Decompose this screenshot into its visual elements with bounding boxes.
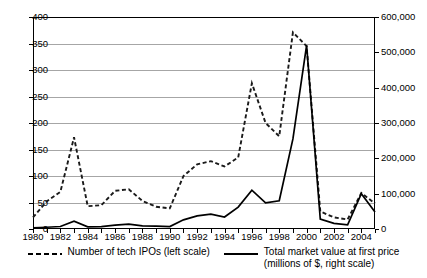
y-axis-right-tick-label: 600,000 <box>381 12 415 22</box>
x-axis-tick-mark <box>183 229 184 233</box>
x-axis-tick-label: 2000 <box>296 232 317 242</box>
y-axis-left-tick-label: 300 <box>32 65 48 75</box>
y-axis-left-tick-label: 400 <box>32 12 48 22</box>
y-axis-right-tick-label: 100,000 <box>381 189 415 199</box>
x-axis-tick-mark <box>211 229 212 233</box>
y-axis-right-tick-mark <box>375 123 379 124</box>
gridline <box>34 123 374 124</box>
chart-legend: Number of tech IPOs (left scale)Total ma… <box>0 246 427 270</box>
plot-area <box>33 17 375 229</box>
x-axis-tick-mark <box>320 229 321 233</box>
legend-item: Total market value at first price (milli… <box>224 246 400 270</box>
x-axis-tick-mark <box>348 229 349 233</box>
y-axis-right-tick-label: 200,000 <box>381 154 415 164</box>
gridline <box>34 176 374 177</box>
gridline <box>34 70 374 71</box>
y-axis-right-tick-mark <box>375 194 379 195</box>
y-axis-right-tick-mark <box>375 158 379 159</box>
gridline <box>34 44 374 45</box>
x-axis-tick-mark <box>74 229 75 233</box>
y-axis-left-tick-label: 250 <box>32 92 48 102</box>
y-axis-left-tick-mark <box>29 176 33 177</box>
y-axis-left-tick-label: 200 <box>32 118 48 128</box>
x-axis-tick-mark <box>238 229 239 233</box>
x-axis-tick-label: 1982 <box>50 232 71 242</box>
x-axis-tick-label: 1994 <box>214 232 235 242</box>
x-axis-tick-label: 1990 <box>159 232 180 242</box>
y-axis-left-tick-label: 50 <box>37 198 48 208</box>
y-axis-left-tick-mark <box>29 70 33 71</box>
y-axis-left-tick-mark <box>29 123 33 124</box>
x-axis-tick-mark <box>293 229 294 233</box>
y-axis-right-tick-label: 400,000 <box>381 83 415 93</box>
y-axis-right-tick-label: 300,000 <box>381 118 415 128</box>
tech-ipo-chart: 0501001502002503003504000100,000200,0003… <box>0 0 427 278</box>
x-axis-tick-label: 2004 <box>351 232 372 242</box>
x-axis-tick-mark <box>101 229 102 233</box>
x-axis-tick-label: 1988 <box>132 232 153 242</box>
y-axis-right-tick-label: 0 <box>381 224 386 234</box>
legend-item: Number of tech IPOs (left scale) <box>28 246 210 258</box>
x-axis-tick-mark <box>375 229 376 233</box>
y-axis-left-tick-label: 150 <box>32 145 48 155</box>
y-axis-right-tick-mark <box>375 52 379 53</box>
gridline <box>34 203 374 204</box>
legend-label: Number of tech IPOs (left scale) <box>68 246 210 258</box>
y-axis-left-tick-label: 100 <box>32 171 48 181</box>
legend-dashed-line-icon <box>28 252 62 256</box>
y-axis-left-tick-mark <box>29 17 33 18</box>
x-axis-tick-label: 1998 <box>269 232 290 242</box>
x-axis-tick-mark <box>129 229 130 233</box>
gridline <box>34 150 374 151</box>
y-axis-left-tick-mark <box>29 150 33 151</box>
x-axis-tick-label: 1996 <box>241 232 262 242</box>
y-axis-left-tick-mark <box>29 203 33 204</box>
x-axis-tick-label: 1984 <box>77 232 98 242</box>
x-axis-tick-mark <box>47 229 48 233</box>
y-axis-right-tick-mark <box>375 17 379 18</box>
x-axis-tick-label: 1986 <box>105 232 126 242</box>
y-axis-left-tick-mark <box>29 44 33 45</box>
legend-label: Total market value at first price (milli… <box>264 246 400 270</box>
gridline <box>34 97 374 98</box>
x-axis-tick-label: 1980 <box>22 232 43 242</box>
y-axis-right-tick-mark <box>375 88 379 89</box>
y-axis-left-tick-mark <box>29 97 33 98</box>
y-axis-right-tick-label: 500,000 <box>381 48 415 58</box>
x-axis-tick-mark <box>156 229 157 233</box>
y-axis-left-tick-label: 350 <box>32 39 48 49</box>
x-axis-tick-label: 2002 <box>323 232 344 242</box>
x-axis-tick-mark <box>266 229 267 233</box>
x-axis-tick-label: 1992 <box>187 232 208 242</box>
legend-solid-line-icon <box>224 252 258 256</box>
